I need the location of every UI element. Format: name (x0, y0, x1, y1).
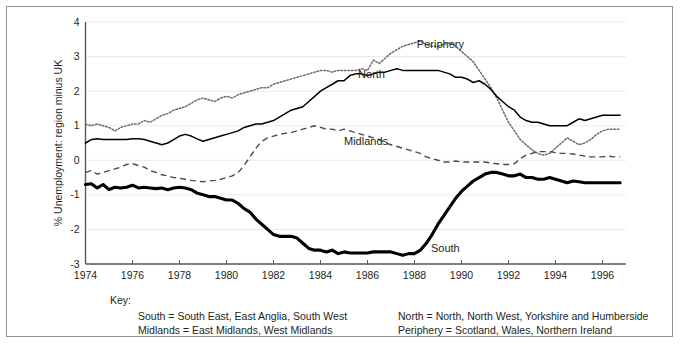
x-tick-label: 1988 (403, 269, 427, 281)
y-tick-label: 1 (74, 119, 80, 131)
chart-plot-area: 43210-1-2-319741976197819801982198419861… (0, 0, 681, 345)
x-tick-label: 1996 (591, 269, 615, 281)
x-tick-label: 1976 (121, 269, 145, 281)
x-tick-label: 1974 (74, 269, 98, 281)
x-tick-label: 1982 (262, 269, 286, 281)
y-tick-label: -3 (70, 258, 79, 270)
series-line-south (86, 172, 621, 255)
series-line-north (86, 69, 621, 145)
x-tick-label: 1986 (356, 269, 380, 281)
y-tick-label: 0 (74, 154, 80, 166)
x-tick-label: 1994 (544, 269, 568, 281)
series-label-midlands: Midlands (344, 135, 389, 147)
series-label-periphery: Periphery (417, 38, 465, 50)
x-tick-label: 1992 (497, 269, 521, 281)
x-tick-label: 1980 (215, 269, 239, 281)
y-tick-label: -2 (70, 223, 79, 235)
line-chart-svg: 43210-1-2-319741976197819801982198419861… (0, 0, 681, 345)
y-tick-label: 4 (74, 16, 80, 28)
series-label-north: North (358, 68, 385, 80)
y-axis-title: % Unemployment: region minus UK (52, 60, 64, 226)
x-tick-label: 1978 (168, 269, 192, 281)
x-tick-label: 1984 (309, 269, 333, 281)
x-tick-label: 1990 (450, 269, 474, 281)
series-label-south: South (431, 242, 460, 254)
y-tick-label: 2 (74, 85, 80, 97)
y-tick-label: -1 (70, 188, 79, 200)
y-tick-label: 3 (74, 50, 80, 62)
